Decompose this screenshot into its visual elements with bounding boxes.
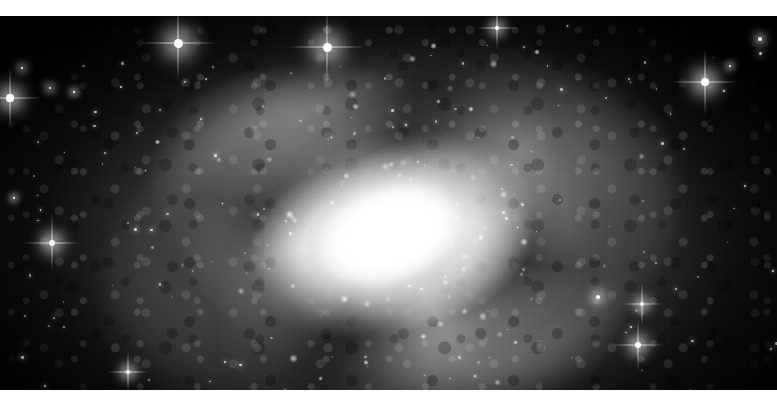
bright-star-with-diffraction-spikes — [23, 214, 80, 271]
field-star — [209, 381, 211, 383]
field-star — [257, 213, 259, 215]
field-star — [40, 209, 42, 211]
field-star — [733, 208, 735, 210]
field-star — [697, 276, 698, 277]
field-star — [102, 163, 104, 165]
field-star — [159, 109, 161, 111]
bright-star-with-diffraction-spikes — [476, 16, 518, 49]
field-star — [353, 132, 356, 135]
field-star — [367, 224, 369, 226]
field-star — [392, 126, 394, 128]
field-star — [299, 120, 302, 123]
field-star — [94, 111, 97, 114]
field-star — [486, 45, 487, 46]
bright-star-with-diffraction-spikes — [107, 351, 149, 390]
field-star — [609, 226, 610, 227]
field-star — [458, 356, 461, 359]
field-star — [82, 65, 84, 67]
field-star — [408, 285, 411, 288]
field-star — [522, 268, 525, 271]
field-star — [63, 301, 64, 302]
field-star — [340, 66, 341, 67]
field-star — [367, 366, 368, 367]
field-star — [48, 325, 50, 327]
field-star — [136, 132, 138, 134]
field-star — [37, 195, 39, 197]
field-star — [744, 185, 746, 187]
field-star — [33, 175, 35, 177]
field-star — [478, 137, 479, 138]
field-star — [120, 86, 122, 88]
bright-star — [49, 87, 52, 90]
field-star — [605, 97, 606, 98]
field-star — [642, 200, 644, 202]
bright-star-with-diffraction-spikes — [139, 16, 217, 82]
field-star — [405, 124, 407, 126]
field-star — [713, 57, 714, 58]
star-core — [49, 240, 56, 247]
field-star — [341, 275, 343, 277]
field-star — [262, 105, 264, 107]
field-star — [341, 184, 342, 185]
field-star — [159, 283, 161, 285]
field-star — [166, 213, 168, 215]
field-star — [64, 152, 65, 153]
field-star — [212, 66, 213, 67]
field-star — [675, 288, 678, 291]
field-star — [420, 288, 422, 290]
field-star — [559, 199, 561, 201]
field-star — [351, 117, 352, 118]
field-star — [424, 375, 425, 376]
field-star — [514, 194, 515, 195]
bright-star-with-diffraction-spikes — [671, 48, 739, 116]
field-star — [644, 61, 647, 64]
field-star — [691, 340, 693, 342]
field-star — [267, 244, 269, 246]
star-core — [323, 43, 332, 52]
field-star — [150, 229, 153, 232]
field-star — [547, 65, 548, 66]
field-star — [462, 62, 465, 65]
field-star — [510, 164, 512, 166]
field-star — [364, 356, 367, 359]
foreground-star-field — [0, 16, 777, 390]
field-star — [670, 113, 671, 114]
bright-star — [21, 67, 24, 70]
field-star — [486, 339, 488, 341]
field-star — [502, 211, 505, 214]
field-star — [628, 78, 630, 80]
bright-star — [729, 65, 732, 68]
field-star — [104, 152, 106, 154]
field-star — [398, 174, 400, 176]
field-star — [184, 81, 186, 83]
field-star — [410, 178, 411, 179]
field-star — [772, 270, 774, 272]
field-star — [625, 332, 626, 333]
field-star — [456, 203, 458, 205]
field-star — [285, 225, 286, 226]
field-star — [723, 90, 724, 91]
field-star — [246, 272, 247, 273]
field-star — [474, 239, 476, 241]
bright-star-with-diffraction-spikes — [0, 67, 41, 129]
field-star — [641, 370, 643, 372]
star-core — [635, 342, 641, 348]
field-star — [453, 221, 454, 222]
field-star — [24, 315, 26, 317]
field-star — [474, 375, 476, 377]
field-star — [224, 361, 226, 363]
bright-star — [758, 37, 761, 40]
bright-star — [13, 197, 16, 200]
field-star — [37, 220, 39, 222]
field-star — [560, 88, 563, 91]
field-star — [505, 217, 507, 219]
field-star — [127, 222, 129, 224]
field-star — [134, 228, 137, 231]
star-core — [640, 302, 645, 307]
field-star — [451, 245, 452, 246]
field-star — [630, 82, 631, 83]
field-star — [643, 251, 645, 253]
field-star — [44, 385, 46, 387]
field-star — [536, 231, 537, 232]
galaxy-image-viewer: Grayscale telescope image of a face-on s… — [0, 0, 777, 408]
